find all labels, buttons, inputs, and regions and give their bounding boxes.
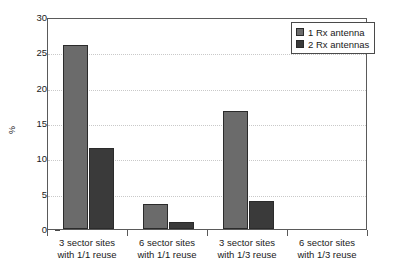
y-tick-label: 0 <box>21 225 47 235</box>
x-axis-label: 6 sector siteswith 1/1 reuse <box>127 237 207 260</box>
x-axis-label: 3 sector siteswith 1/3 reuse <box>207 237 287 260</box>
y-tick-label: 25 <box>21 48 47 58</box>
bar-group <box>48 19 128 229</box>
y-tick-mark <box>55 230 60 231</box>
y-tick-label: 5 <box>21 190 47 200</box>
x-axis-label-line: with 1/1 reuse <box>127 249 207 261</box>
x-axis-label-line: with 1/3 reuse <box>207 249 287 261</box>
legend-item: 2 Rx antennas <box>296 38 369 50</box>
legend-swatch-icon <box>296 40 304 48</box>
legend-label: 2 Rx antennas <box>308 39 369 50</box>
x-axis-label-line: 3 sector sites <box>47 237 127 249</box>
y-tick-label: 15 <box>21 119 47 129</box>
y-tick-label: 10 <box>21 154 47 164</box>
x-axis-label-line: with 1/1 reuse <box>47 249 127 261</box>
bar <box>169 222 194 229</box>
x-axis-label: 6 sector siteswith 1/3 reuse <box>287 237 367 260</box>
x-axis-tick <box>127 230 128 236</box>
bar <box>143 204 168 229</box>
x-axis-label: 3 sector siteswith 1/1 reuse <box>47 237 127 260</box>
y-tick-label: 30 <box>21 13 47 23</box>
bar <box>63 45 88 229</box>
x-axis-label-line: 6 sector sites <box>287 237 367 249</box>
x-axis-label-line: 3 sector sites <box>207 237 287 249</box>
bar-group <box>128 19 208 229</box>
bar <box>223 111 248 229</box>
x-axis-tick <box>207 230 208 236</box>
bar <box>89 148 114 229</box>
bar-chart: % 302520151050 3 sector siteswith 1/1 re… <box>0 0 407 275</box>
legend-swatch-icon <box>296 28 304 36</box>
y-axis-ticks: 302520151050 <box>14 0 47 275</box>
legend-item: 1 Rx antenna <box>296 26 369 38</box>
bar-group <box>208 19 288 229</box>
legend-label: 1 Rx antenna <box>308 27 365 38</box>
x-axis-tick <box>287 230 288 236</box>
legend: 1 Rx antenna 2 Rx antennas <box>291 22 375 54</box>
y-tick-label: 20 <box>21 84 47 94</box>
x-axis-tick <box>367 230 368 236</box>
bar <box>249 201 274 229</box>
x-axis-label-line: with 1/3 reuse <box>287 249 367 261</box>
x-axis-label-line: 6 sector sites <box>127 237 207 249</box>
x-axis-tick <box>47 230 48 236</box>
